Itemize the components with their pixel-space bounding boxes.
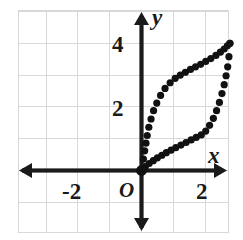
y-tick-label-4: 4 (112, 33, 124, 56)
figure-canvas: 4 2 -2 2 O x y (0, 0, 243, 240)
y-axis-label: y (152, 6, 162, 29)
origin-label: O (119, 180, 134, 201)
x-tick-label-negative-2: -2 (62, 180, 81, 203)
x-axis-label: x (208, 144, 220, 167)
y-tick-label-2: 2 (112, 97, 124, 120)
x-tick-label-2: 2 (196, 180, 208, 203)
